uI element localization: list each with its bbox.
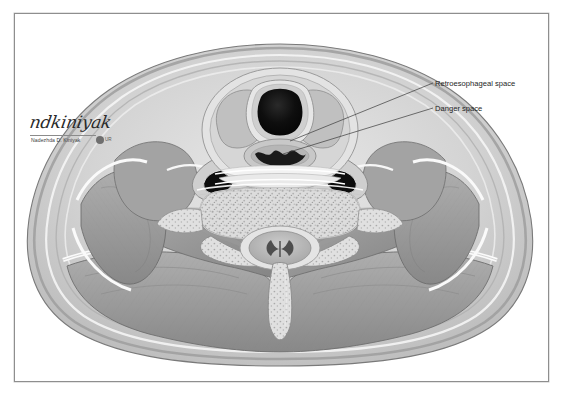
artist-signature: ndkiniyak Nadezhda D. Kiniyak UR — [30, 112, 145, 154]
spinous-process — [268, 263, 292, 341]
signature-underline — [30, 135, 96, 136]
signature-script: ndkiniyak — [28, 112, 112, 132]
signature-badge-text: UR — [105, 137, 112, 142]
anatomical-illustration — [15, 14, 546, 380]
signature-badge-icon — [96, 136, 104, 144]
signature-name: Nadezhda D. Kiniyak — [31, 137, 80, 143]
label-danger-space: Danger space — [435, 104, 482, 113]
label-retroesophageal-space: Retroesophageal space — [435, 79, 515, 88]
tracheal-lumen — [258, 89, 303, 136]
